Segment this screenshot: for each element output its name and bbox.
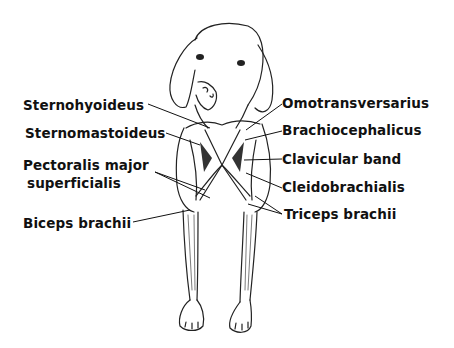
- left-ear: [170, 38, 197, 107]
- label-cleidobrachialis: Cleidobrachialis: [282, 180, 405, 195]
- dog-head: [195, 24, 263, 105]
- label-sternomastoideus: Sternomastoideus: [25, 126, 166, 141]
- label-triceps-brachii: Triceps brachii: [284, 207, 396, 222]
- right-leg: [240, 212, 244, 302]
- label-sternohyoideus: Sternohyoideus: [23, 98, 144, 113]
- right-ear: [255, 45, 273, 112]
- label-brachiocephalicus: Brachiocephalicus: [282, 123, 422, 138]
- torso: [176, 128, 194, 212]
- label-clavicular-band: Clavicular band: [282, 152, 401, 167]
- dog-illustration: [0, 0, 454, 348]
- label-omotransversarius: Omotransversarius: [282, 96, 429, 111]
- label-biceps-brachii: Biceps brachii: [23, 216, 131, 231]
- label-pectoralis-line1: Pectoralis major: [23, 158, 149, 173]
- left-leg: [183, 210, 190, 300]
- label-pectoralis-line2: superficialis: [27, 176, 121, 191]
